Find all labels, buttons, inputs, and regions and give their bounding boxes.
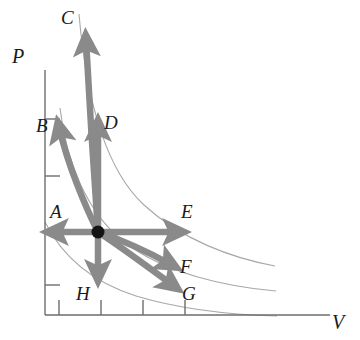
arrow-label-D: D: [104, 113, 118, 132]
arrow-label-H: H: [76, 284, 90, 303]
arrow-label-B: B: [36, 116, 48, 135]
arrow-label-F: F: [180, 257, 192, 276]
pv-diagram-canvas: [0, 0, 360, 340]
arrow-label-C: C: [61, 8, 74, 27]
pv-diagram-figure: P V A B C D E F G H: [0, 0, 360, 340]
process-arrows: [52, 40, 179, 286]
isotherm-curves: [45, 14, 277, 316]
arrow-label-E: E: [181, 202, 193, 221]
arrow-label-A: A: [50, 202, 62, 221]
arrow-label-G: G: [182, 284, 196, 303]
y-axis-label: P: [12, 46, 24, 66]
x-axis-label: V: [332, 312, 344, 332]
state-point-dot: [92, 226, 105, 239]
